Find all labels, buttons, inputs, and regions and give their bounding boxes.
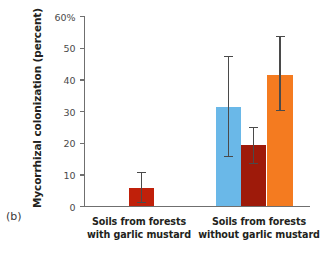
group-label-line2: with garlic mustard bbox=[84, 229, 194, 242]
y-tick-30: 30 bbox=[80, 111, 85, 112]
group-label-line1: Soils from forests bbox=[84, 216, 194, 229]
y-tick-40: 40 bbox=[80, 79, 85, 80]
x-axis-group-label-2: Soils from forestswithout garlic mustard bbox=[196, 216, 322, 241]
bar-group2-blue-errorbar-cap-bottom bbox=[224, 156, 233, 157]
bar-group2-darkred-errorbar bbox=[253, 127, 254, 163]
panel-letter: (b) bbox=[6, 210, 22, 223]
bar-group2-blue-errorbar bbox=[228, 56, 229, 156]
bar-group1-red-errorbar-cap-bottom bbox=[137, 202, 146, 203]
y-axis-line bbox=[84, 16, 85, 206]
bar-group2-orange-errorbar-cap-top bbox=[276, 36, 285, 37]
bar-group2-orange-errorbar bbox=[279, 36, 280, 110]
group-label-line2: without garlic mustard bbox=[196, 229, 322, 242]
bar-group2-blue-errorbar-cap-top bbox=[224, 56, 233, 57]
y-tick-label: 60% bbox=[54, 11, 75, 22]
y-axis-title-wrapper: Mycorrhizal colonization (percent) bbox=[27, 8, 47, 208]
y-axis-title: Mycorrhizal colonization (percent) bbox=[31, 8, 43, 208]
group-label-line1: Soils from forests bbox=[196, 216, 322, 229]
y-tick-label: 20 bbox=[63, 138, 75, 149]
bar-group2-darkred-errorbar-cap-bottom bbox=[249, 163, 258, 164]
y-tick-10: 10 bbox=[80, 174, 85, 175]
y-tick-label: 30 bbox=[63, 106, 75, 117]
bar-group2-darkred-errorbar-cap-top bbox=[249, 127, 258, 128]
y-tick-label: 40 bbox=[63, 74, 75, 85]
bar-group2-orange-errorbar-cap-bottom bbox=[276, 110, 285, 111]
bar-group1-red-errorbar bbox=[141, 172, 142, 202]
y-tick-60: 60% bbox=[80, 16, 85, 17]
y-tick-label: 50 bbox=[63, 43, 75, 54]
y-tick-0: 0 bbox=[80, 206, 85, 207]
bar-group1-red-errorbar-cap-top bbox=[137, 172, 146, 173]
plot-area: 0102030405060% bbox=[84, 16, 310, 206]
y-tick-20: 20 bbox=[80, 143, 85, 144]
y-tick-label: 0 bbox=[69, 201, 75, 212]
y-tick-50: 50 bbox=[80, 48, 85, 49]
x-axis-line bbox=[84, 206, 310, 207]
y-tick-label: 10 bbox=[63, 169, 75, 180]
x-axis-group-label-1: Soils from forestswith garlic mustard bbox=[84, 216, 194, 241]
